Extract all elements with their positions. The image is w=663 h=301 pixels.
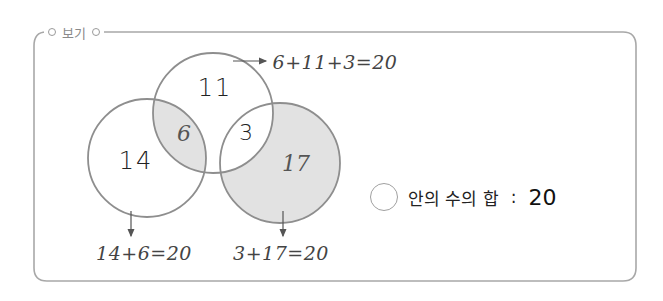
blank-circle-icon — [370, 183, 398, 211]
sum-note-label: 안의 수의 합 — [408, 185, 499, 210]
left-top-overlap-value: 6 — [177, 121, 191, 146]
legend-dot-right — [92, 28, 100, 36]
equation-right: 3+17=20 — [233, 242, 329, 264]
right-circle-value: 17 — [282, 151, 310, 176]
equation-top: 6+11+3=20 — [273, 51, 398, 73]
legend-label: 보기 — [62, 23, 86, 42]
legend-tag: 보기 — [44, 22, 104, 42]
top-right-overlap-value: 3 — [239, 120, 255, 145]
legend-connector — [110, 31, 112, 33]
sum-note: 안의 수의 합 : 20 — [370, 183, 557, 211]
equation-left: 14+6=20 — [96, 242, 192, 264]
left-circle-value: 14 — [119, 147, 154, 175]
sum-note-value: 20 — [529, 185, 557, 210]
example-box: 보기 11 14 6 3 17 6+11+3=20 14+6=20 3+17=2… — [0, 0, 663, 301]
sum-note-colon: : — [511, 187, 517, 207]
top-circle-value: 11 — [198, 74, 233, 102]
legend-dot-left — [48, 28, 56, 36]
